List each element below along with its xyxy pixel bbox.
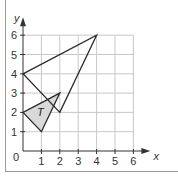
y-tick-label: 2 [11, 106, 17, 118]
x-axis-label: x [152, 150, 159, 162]
x-tick-label: 1 [38, 155, 44, 167]
coordinate-grid: 1234561234560xyT [0, 0, 178, 183]
y-tick-label: 4 [11, 68, 17, 80]
y-tick-label: 3 [11, 87, 17, 99]
x-tick-label: 3 [75, 155, 81, 167]
x-tick-label: 4 [94, 155, 100, 167]
origin-label: 0 [13, 151, 19, 163]
y-axis-label: y [13, 12, 21, 24]
x-tick-label: 6 [130, 155, 136, 167]
y-axis-arrow-icon [20, 17, 26, 26]
x-tick-label: 5 [112, 155, 118, 167]
x-axis-arrow-icon [141, 148, 150, 154]
y-tick-label: 6 [11, 29, 17, 41]
y-tick-label: 1 [11, 126, 17, 138]
x-tick-label: 2 [57, 155, 63, 167]
y-tick-label: 5 [11, 49, 17, 61]
